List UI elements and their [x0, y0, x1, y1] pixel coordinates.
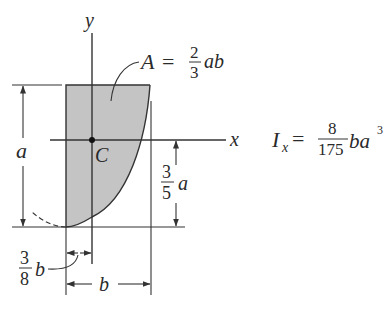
dim-a-label: a	[16, 138, 27, 163]
inertia-equals: =	[292, 126, 304, 151]
area-equals: =	[162, 49, 174, 74]
centroid-dot	[89, 137, 95, 143]
inertia-exponent: 3	[377, 123, 383, 137]
dim-3-8b-numerator: 3	[20, 248, 29, 268]
centroid-label: C	[95, 144, 109, 166]
dim-3-8b-suffix: b	[35, 258, 45, 280]
inertia-subscript: x	[281, 140, 289, 155]
dim-3-5a-suffix: a	[178, 172, 188, 194]
dim-b-label: b	[99, 273, 109, 295]
y-axis-label: y	[83, 9, 94, 32]
x-axis-label: x	[229, 128, 239, 150]
dim-3-8b-leader	[48, 255, 78, 269]
parabolic-area-diagram: a 3 5 a 3 8 b b y x C A = 2 3 ab I x = 8…	[0, 0, 392, 313]
area-numerator: 2	[190, 43, 199, 62]
area-denominator: 3	[190, 63, 199, 82]
dim-3-5a-numerator: 3	[162, 162, 171, 182]
area-suffix: ab	[204, 50, 224, 72]
inertia-denominator: 175	[318, 140, 344, 159]
inertia-suffix: ba	[349, 129, 370, 153]
area-lhs: A	[139, 49, 155, 74]
parabola-dashed-extension	[32, 212, 66, 227]
inertia-numerator: 8	[328, 119, 337, 138]
inertia-lhs: I	[271, 127, 281, 152]
dim-3-5a-denominator: 5	[162, 183, 171, 203]
dim-3-8b-denominator: 8	[20, 269, 29, 289]
